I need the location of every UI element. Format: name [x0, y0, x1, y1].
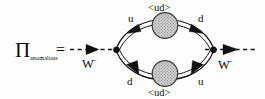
right-vertex-dot [210, 47, 216, 53]
lower-blob-circle [152, 61, 178, 87]
lower-right-quark-label: u [198, 75, 204, 87]
equals-sign: = [56, 41, 65, 58]
feynman-diagram-canvas: Π anomalous = W − W − [0, 0, 265, 99]
left-w-boson-leg: W − [70, 44, 115, 71]
feynman-diagram-figure: Π anomalous = W − W − [0, 0, 265, 99]
upper-left-quark-arrowhead-icon [127, 24, 141, 34]
upper-blob-circle [152, 13, 178, 39]
pi-symbol: Π [15, 38, 30, 62]
upper-condensate-label: <ud> [148, 2, 170, 13]
pi-subscript-anomalous: anomalous [30, 54, 58, 61]
lower-left-quark-label: d [127, 75, 133, 87]
right-w-arrowhead-icon [223, 44, 238, 54]
lower-condensate-label: <ud> [148, 87, 170, 98]
right-w-charge-superscript: − [228, 56, 233, 66]
upper-left-quark-label: u [128, 12, 134, 24]
left-vertex-dot [113, 47, 119, 53]
lhs-expression: Π anomalous = [15, 38, 65, 62]
left-w-arrowhead-icon [86, 44, 99, 54]
upper-right-quark-arrowhead-icon [189, 24, 203, 34]
upper-right-quark-label: d [198, 12, 204, 24]
left-w-charge-superscript: − [92, 55, 97, 65]
